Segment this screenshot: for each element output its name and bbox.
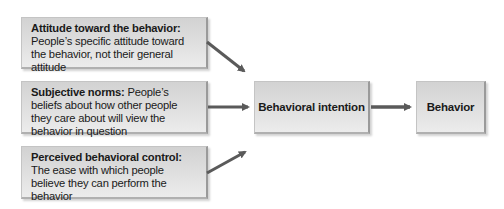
connector-arrows xyxy=(0,0,504,209)
arrow-attitude-to-intention xyxy=(207,42,244,71)
arrow-control-to-intention xyxy=(207,152,245,173)
